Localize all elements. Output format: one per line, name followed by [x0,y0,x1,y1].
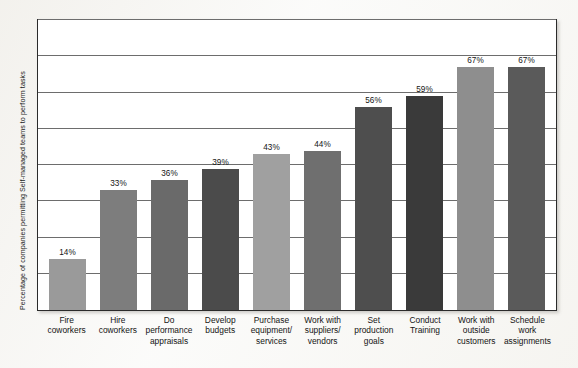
x-tick-label-line: Develop [196,315,245,325]
x-tick-label: Firecoworkers [41,315,92,365]
bar-value-label: 36% [161,169,177,178]
bar-value-label: 14% [59,248,75,257]
bar: 14% [49,259,87,310]
bar-value-label: 44% [314,140,330,149]
x-tick-label-line: goals [349,336,398,346]
x-tick-label-line: coworkers [42,325,91,335]
x-tick-label: Hirecoworkers [92,315,143,365]
x-tick-label: Setproductiongoals [348,315,399,365]
bar-slot: 67% [501,20,552,310]
x-tick-label-line: customers [452,336,501,346]
x-tick-label-line: suppliers/ [298,325,347,335]
x-tick-label: ConductTraining [399,315,450,365]
x-tick-label-line: Conduct [400,315,449,325]
bar: 67% [457,67,495,310]
bar-value-label: 43% [263,143,279,152]
x-tick-label-line: Fire [42,315,91,325]
x-tick-label-line: vendors [298,336,347,346]
bar-slot: 44% [297,20,348,310]
bar-slot: 59% [399,20,450,310]
x-tick-label-line: coworkers [93,325,142,335]
x-tick-label-line: performance [144,325,193,335]
x-tick-label-line: Schedule [503,315,552,325]
x-tick-label-line: Work with [298,315,347,325]
bar: 59% [406,96,444,310]
bar: 33% [100,190,138,310]
bar: 43% [253,154,291,310]
x-tick-label-line: services [247,336,296,346]
x-tick-label-line: Hire [93,315,142,325]
x-tick-label: Doperformanceappraisals [143,315,194,365]
bar: 39% [202,169,240,310]
x-tick-label-line: assignments [503,336,552,346]
x-tick-label-line: Work with [452,315,501,325]
bar-slot: 43% [246,20,297,310]
x-tick-label-line: equipment/ [247,325,296,335]
x-tick-label-line: Do [144,315,193,325]
x-tick-label-line: Set [349,315,398,325]
bar-slot: 39% [195,20,246,310]
x-tick-label-line: Purchase [247,315,296,325]
bar-value-label: 56% [365,96,381,105]
x-tick-label: Work withoutsidecustomers [451,315,502,365]
bar: 44% [304,151,342,311]
x-tick-label-line: Training [400,325,449,335]
x-tick-label: Developbudgets [195,315,246,365]
bar: 36% [151,180,189,311]
bar-series: 14%33%36%39%43%44%56%59%67%67% [38,20,556,310]
bar: 67% [508,67,546,310]
plot-inner: 14%33%36%39%43%44%56%59%67%67% [38,20,556,310]
x-tick-label: Scheduleworkassignments [502,315,553,365]
bar-value-label: 33% [110,179,126,188]
x-axis-tick-labels: FirecoworkersHirecoworkersDoperformancea… [37,315,557,365]
x-tick-label-line: budgets [196,325,245,335]
bar-slot: 36% [144,20,195,310]
bar: 56% [355,107,393,310]
y-axis-title: Percentage of companies permitting Self-… [16,18,30,310]
x-tick-label-line: outside [452,325,501,335]
x-tick-label-line: work [503,325,552,335]
bar-slot: 56% [348,20,399,310]
bar-value-label: 39% [212,158,228,167]
x-tick-label-line: production [349,325,398,335]
bar-value-label: 59% [416,85,432,94]
bar-value-label: 67% [518,56,534,65]
bar-value-label: 67% [467,56,483,65]
x-tick-label: Work withsuppliers/vendors [297,315,348,365]
chart-figure: Percentage of companies permitting Self-… [0,0,578,368]
plot-area: 14%33%36%39%43%44%56%59%67%67% [37,19,557,311]
bar-slot: 14% [42,20,93,310]
bar-slot: 67% [450,20,501,310]
x-tick-label: Purchaseequipment/services [246,315,297,365]
bar-slot: 33% [93,20,144,310]
x-tick-label-line: appraisals [144,336,193,346]
